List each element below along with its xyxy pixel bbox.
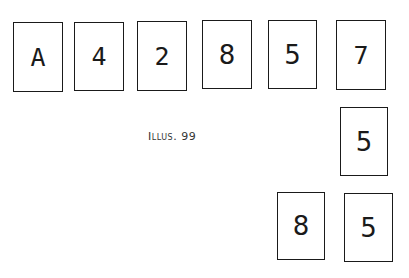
- card-top-6: 7: [336, 20, 386, 90]
- illustration-caption: Illus. 99: [148, 130, 196, 143]
- card-column: 5: [340, 107, 388, 176]
- card-value: 8: [293, 213, 310, 239]
- card-top-2: 4: [74, 22, 124, 91]
- card-top-1: A: [13, 22, 63, 92]
- card-value: A: [30, 45, 45, 70]
- card-value: 5: [356, 129, 373, 155]
- card-value: 5: [360, 215, 377, 241]
- card-value: 7: [353, 43, 368, 68]
- card-value: 4: [91, 44, 106, 69]
- card-value: 2: [154, 44, 169, 69]
- card-top-3: 2: [137, 21, 187, 91]
- card-top-4: 8: [202, 20, 252, 89]
- card-bottom-2: 5: [344, 193, 393, 262]
- card-value: 5: [284, 42, 301, 68]
- card-value: 8: [219, 42, 236, 68]
- card-bottom-1: 8: [277, 192, 325, 260]
- card-top-5: 5: [268, 20, 317, 89]
